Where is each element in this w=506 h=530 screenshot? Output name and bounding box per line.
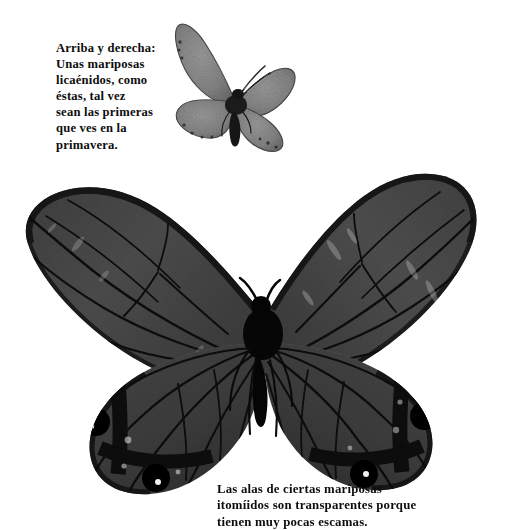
lycaenid-legs (222, 111, 251, 136)
caption-top-line-3: licaénidos, como (56, 72, 188, 88)
ithomiid-right-forewing (261, 174, 477, 396)
small-butterfly-lycaenid (172, 6, 298, 154)
hindwing-band-outer-right (400, 360, 404, 472)
caption-top-line-4: éstas, tal vez (56, 88, 188, 104)
lycaenid-wing-margin-flecks (178, 40, 278, 148)
ithomiid-legs (230, 348, 292, 436)
caption-bottom-line-3: tienen muy pocas escamas. (217, 514, 487, 530)
lycaenid-thorax (225, 95, 247, 115)
left-hindwing-eyespot-lower (142, 464, 170, 492)
caption-top-line-1: Arriba y derecha: (56, 40, 188, 56)
ithomiid-right-hindwing (265, 344, 438, 496)
caption-upper-right-butterfly: Arriba y derecha: Unas mariposas licaéni… (56, 40, 188, 153)
caption-transparent-wings: Las alas de ciertas mariposas itomíidos … (217, 481, 487, 530)
large-butterfly-ithomiid (8, 148, 498, 500)
hindwing-band-inner (100, 448, 212, 462)
right-hindwing-eyespot-upper (410, 402, 438, 430)
caption-top-line-6: que ves en la (56, 120, 188, 136)
lycaenid-antennae-highlight (244, 69, 268, 92)
ithomiid-body (243, 296, 283, 427)
left-hindwing-eyespot-upper (82, 408, 110, 436)
hindwing-band-inner-right (310, 446, 422, 460)
plate-page: Arriba y derecha: Unas mariposas licaéni… (0, 0, 506, 530)
ithomiid-left-forewing (26, 187, 263, 394)
ithomiid-left-hindwing (82, 344, 261, 498)
lycaenid-right-hindwing (236, 107, 283, 152)
caption-top-line-2: Unas mariposas (56, 56, 188, 72)
caption-top-line-5: sean las primeras (56, 104, 188, 120)
lycaenid-abdomen (229, 112, 240, 147)
lycaenid-head (232, 89, 244, 99)
caption-top-line-7: primavera. (56, 137, 188, 153)
ithomiid-abdomen (253, 354, 268, 427)
ithomiid-thorax (243, 308, 283, 360)
lycaenid-right-forewing (240, 68, 295, 116)
hindwing-band-outer (116, 362, 120, 474)
lycaenid-antennae (241, 66, 270, 95)
ithomiid-head (251, 296, 271, 316)
caption-bottom-line-1: Las alas de ciertas mariposas (217, 481, 487, 497)
ithomiid-antennae (240, 278, 280, 302)
caption-bottom-line-2: itomíidos son transparentes porque (217, 497, 487, 513)
